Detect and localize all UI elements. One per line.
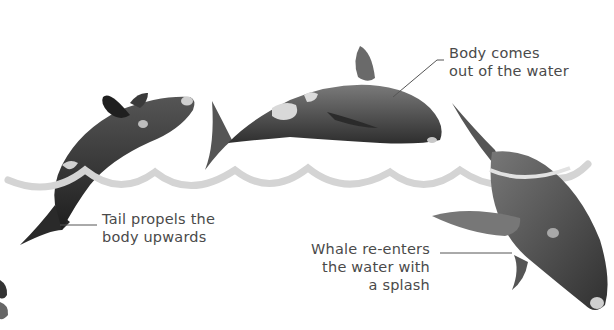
label-line: Body comes xyxy=(449,44,569,62)
whale-airborne xyxy=(205,46,442,170)
label-body-out-of-water: Body comes out of the water xyxy=(449,44,569,80)
partial-whale-edge xyxy=(0,280,8,319)
label-line: a splash xyxy=(300,276,430,294)
label-tail-propels: Tail propels the body upwards xyxy=(102,210,215,246)
label-line: the water with xyxy=(300,258,430,276)
label-line: out of the water xyxy=(449,62,569,80)
label-whale-reenters: Whale re-enters the water with a splash xyxy=(300,240,430,294)
label-line: Whale re-enters xyxy=(300,240,430,258)
label-line: Tail propels the xyxy=(102,210,215,228)
whale-diving xyxy=(432,103,608,310)
whale-breach-diagram: Body comes out of the water Tail propels… xyxy=(0,0,614,330)
label-line: body upwards xyxy=(102,228,215,246)
